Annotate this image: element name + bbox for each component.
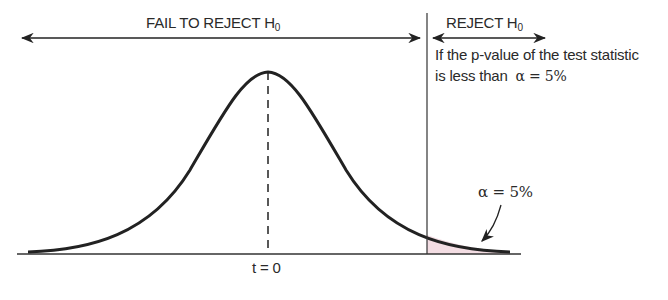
distribution-diagram (0, 0, 668, 300)
center-t-label: t = 0 (252, 259, 281, 276)
bell-curve (28, 72, 510, 252)
tail-alpha-label: α = 5% (478, 183, 533, 201)
fail-to-reject-label: FAIL TO REJECT H0 (146, 14, 280, 33)
tail-pointer-arrow (482, 205, 501, 241)
reject-note-line2: is less than α = 5% (435, 67, 567, 84)
reject-label: REJECT H0 (446, 14, 523, 33)
alpha-value: α = 5% (516, 68, 567, 84)
reject-note-line1: If the p-value of the test statistic (435, 46, 639, 63)
